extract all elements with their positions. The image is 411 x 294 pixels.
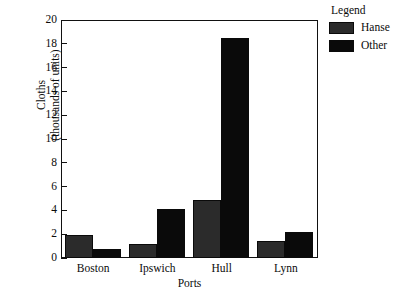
legend: Legend HanseOther — [329, 4, 409, 57]
y-axis-tick-label: 10 — [46, 133, 58, 145]
bar-ipswich-other — [157, 209, 185, 258]
x-axis-label-ipswich: Ipswich — [125, 262, 189, 275]
x-axis-label-hull: Hull — [190, 262, 254, 275]
legend-entry-other[interactable]: Other — [329, 39, 409, 52]
bar-lynn-hanse — [257, 241, 285, 258]
y-axis-tick-label: 12 — [46, 109, 58, 121]
bar-boston-hanse — [65, 235, 93, 258]
legend-swatch-other — [329, 40, 354, 52]
y-axis-tick-label: 4 — [51, 204, 57, 216]
y-axis-tick-label: 20 — [46, 14, 58, 26]
bar-lynn-other — [285, 232, 313, 258]
x-axis-label-boston: Boston — [61, 262, 125, 275]
legend-label-hanse: Hanse — [361, 21, 390, 34]
y-axis-tick-label: 0 — [51, 252, 57, 264]
legend-swatch-hanse — [329, 22, 354, 34]
y-axis-tick-label: 14 — [46, 85, 58, 97]
y-axis-tick — [61, 20, 67, 21]
legend-entries: HanseOther — [329, 21, 409, 52]
plot-area — [63, 22, 317, 259]
bar-hull-hanse — [193, 200, 221, 258]
bar-ipswich-hanse — [129, 244, 157, 258]
y-axis-tick-label: 8 — [51, 157, 57, 169]
legend-entry-hanse[interactable]: Hanse — [329, 21, 409, 34]
y-axis-tick-label: 18 — [46, 38, 58, 50]
y-axis-tick-label: 6 — [51, 181, 57, 193]
bar-boston-other — [93, 249, 121, 258]
legend-title: Legend — [331, 4, 409, 17]
y-axis-tick-label: 2 — [51, 228, 57, 240]
bar-chart-figure: Cloths (thousands of units) 024681012141… — [0, 0, 411, 294]
legend-label-other: Other — [361, 39, 387, 52]
bar-hull-other — [221, 38, 249, 258]
x-axis-label-lynn: Lynn — [254, 262, 318, 275]
x-axis-title: Ports — [61, 277, 318, 290]
y-axis-tick-label: 16 — [46, 62, 58, 74]
